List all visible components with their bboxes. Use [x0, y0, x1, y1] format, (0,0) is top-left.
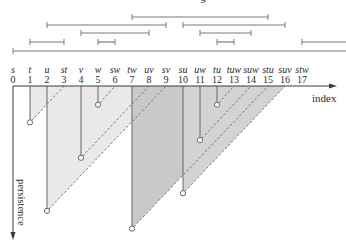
death-point-icon: [95, 102, 100, 107]
death-point-icon: [197, 138, 202, 143]
index-tick-label: 14: [246, 74, 256, 85]
index-tick-label: 8: [147, 74, 152, 85]
barcode-interval: [302, 39, 346, 45]
pairing-triangles: [30, 86, 285, 229]
index-tick-label: 6: [113, 74, 118, 85]
barcode-interval: [47, 22, 166, 28]
index-tick-label: 16: [280, 74, 290, 85]
index-tick-label: 15: [263, 74, 273, 85]
index-tick-label: 17: [297, 74, 307, 85]
index-tick-label: 13: [229, 74, 239, 85]
index-tick-label: 1: [28, 74, 33, 85]
death-point-icon: [44, 208, 49, 213]
x-axis-arrow-icon: [329, 84, 337, 89]
persistence-figure: g stustvwswtwuvsvsuuwtutuwsuwstusuvstw 0…: [0, 0, 346, 243]
index-tick-label: 11: [195, 74, 205, 85]
index-tick-label: 0: [11, 74, 16, 85]
index-tick-labels: 01234567891011121314151617: [11, 74, 308, 85]
index-tick-label: 10: [178, 74, 188, 85]
death-point-icon: [129, 226, 134, 231]
index-tick-label: 2: [45, 74, 50, 85]
death-point-icon: [27, 120, 32, 125]
barcode-interval: [30, 39, 64, 45]
x-axis-label: index: [312, 92, 337, 104]
barcode-interval: [81, 30, 149, 36]
index-tick-label: 12: [212, 74, 222, 85]
death-point-icon: [180, 191, 185, 196]
barcode: [13, 14, 346, 54]
y-axis-label: persistence: [16, 179, 27, 226]
index-tick-label: 9: [164, 74, 169, 85]
barcode-interval: [183, 22, 285, 28]
barcode-interval: [200, 30, 251, 36]
y-axis-arrow-icon: [11, 232, 16, 240]
top-label-fragment: g: [201, 0, 207, 3]
index-tick-label: 4: [79, 74, 84, 85]
barcode-interval: [13, 48, 346, 54]
barcode-interval: [132, 14, 268, 20]
barcode-interval: [217, 39, 234, 45]
index-tick-label: 5: [96, 74, 101, 85]
death-point-icon: [214, 102, 219, 107]
index-tick-label: 3: [62, 74, 67, 85]
barcode-interval: [98, 39, 115, 45]
death-point-icon: [78, 155, 83, 160]
index-tick-label: 7: [130, 74, 135, 85]
